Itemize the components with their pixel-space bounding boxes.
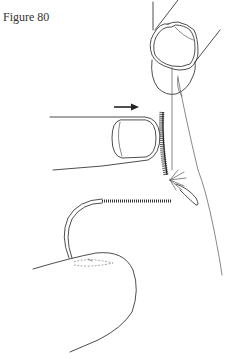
hook [64,199,172,258]
arrow-right-icon [114,104,139,111]
figure-illustration [0,0,237,359]
index-finger [50,117,160,170]
lower-thumb [33,253,136,352]
hackle-feather [162,112,199,205]
upper-thumb [150,0,220,96]
palm-outline [178,78,222,275]
